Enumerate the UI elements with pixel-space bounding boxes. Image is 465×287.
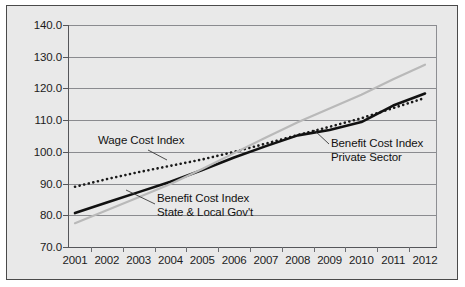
gridline: [69, 88, 436, 89]
x-axis-tick-label: 2007: [254, 254, 279, 266]
y-axis-tick-label: 100.0: [34, 146, 62, 158]
y-axis-tick-label: 110.0: [35, 114, 62, 126]
x-axis-tick-label: 2008: [285, 254, 310, 266]
y-axis-tick: [63, 215, 69, 216]
x-axis-tick-label: 2012: [413, 254, 438, 266]
x-axis-tick: [409, 247, 410, 252]
x-axis-tick-label: 2006: [222, 254, 247, 266]
x-axis-tick: [250, 247, 251, 252]
y-axis-tick-label: 70.0: [40, 241, 62, 253]
y-axis-tick-label: 140.0: [34, 19, 62, 31]
annotation-benefit-cost-index-state-local: Benefit Cost IndexState & Local Gov't: [157, 192, 253, 219]
x-axis-tick-label: 2001: [63, 254, 88, 266]
x-axis-tick: [377, 247, 378, 252]
gridline: [69, 184, 436, 185]
y-axis-labels: 140.0130.0120.0110.0100.090.080.070.0: [10, 25, 62, 247]
x-axis-tick-label: 2009: [317, 254, 342, 266]
x-axis-tick: [282, 247, 283, 252]
y-axis-tick-label: 130.0: [34, 51, 62, 63]
chart-figure: 140.0130.0120.0110.0100.090.080.070.0 20…: [0, 0, 465, 287]
x-axis-tick: [91, 247, 92, 252]
annotation-line: Wage Cost Index: [98, 134, 184, 148]
y-axis-tick-label: 80.0: [40, 209, 62, 221]
x-axis-tick: [345, 247, 346, 252]
y-axis-tick: [63, 57, 69, 58]
y-axis-tick-label: 120.0: [34, 82, 62, 94]
y-axis-tick: [63, 88, 69, 89]
annotation-line: Private Sector: [331, 151, 423, 165]
x-axis-tick: [314, 247, 315, 252]
annotation-benefit-cost-index-private-sector: Benefit Cost IndexPrivate Sector: [331, 137, 423, 164]
annotation-wage-cost-index: Wage Cost Index: [98, 134, 184, 148]
annotation-line: Benefit Cost Index: [331, 137, 423, 151]
x-axis-tick-label: 2010: [349, 254, 374, 266]
x-axis-tick-label: 2011: [381, 254, 405, 266]
gridline: [69, 25, 436, 26]
x-axis-tick: [123, 247, 124, 252]
x-axis-tick: [186, 247, 187, 252]
y-axis-tick: [63, 25, 69, 26]
annotation-line: Benefit Cost Index: [157, 192, 253, 206]
y-axis-tick-label: 90.0: [40, 178, 62, 190]
x-axis-tick-label: 2003: [126, 254, 151, 266]
y-axis-tick: [63, 120, 69, 121]
y-axis-tick: [63, 184, 69, 185]
x-axis-tick-label: 2002: [94, 254, 119, 266]
y-axis-tick: [63, 152, 69, 153]
x-axis-tick-label: 2005: [190, 254, 215, 266]
x-axis-labels: 2001200220032004200520062007200820092010…: [68, 254, 437, 270]
annotation-line: State & Local Gov't: [157, 206, 253, 220]
x-axis-tick: [218, 247, 219, 252]
x-axis-tick: [155, 247, 156, 252]
x-axis-tick-label: 2004: [158, 254, 183, 266]
gridline: [69, 57, 436, 58]
gridline: [69, 120, 436, 121]
